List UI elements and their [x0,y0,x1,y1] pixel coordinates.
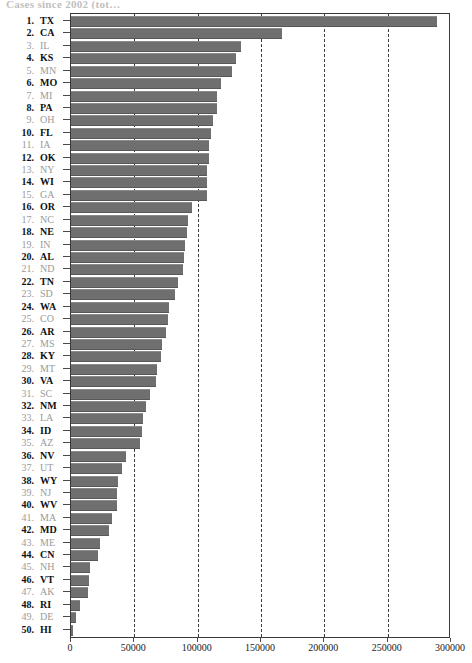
bar [71,401,146,412]
row-rank: 40. [8,499,34,511]
row-category-label: CA [40,27,64,39]
row-rank: 20. [8,251,34,263]
bar-row: 49.DE [0,611,472,623]
row-category-label: NE [40,226,64,238]
row-rank: 4. [8,52,34,64]
row-category-label: VT [40,574,64,586]
bar-row: 3.IL [0,40,472,52]
bar [71,327,166,338]
row-tick [63,542,70,543]
row-rank: 42. [8,524,34,536]
row-category-label: ND [40,263,64,275]
row-tick [63,591,70,592]
row-category-label: AR [40,326,64,338]
x-tick-label: 250000 [372,642,402,654]
x-tick-label: 200000 [308,642,338,654]
row-rank: 13. [8,164,34,176]
row-tick [63,529,70,530]
bar [71,587,88,598]
row-rank: 24. [8,301,34,313]
bar-rows: 1.TX2.CA3.IL4.KS5.MN6.MO7.MI8.PA9.OH10.F… [0,0,472,663]
bar [71,202,192,213]
row-tick [63,57,70,58]
row-tick [63,492,70,493]
row-tick [63,442,70,443]
row-tick [63,45,70,46]
row-category-label: ME [40,537,64,549]
x-tick-label: 0 [68,642,73,654]
row-rank: 7. [8,90,34,102]
bar-row: 38.WY [0,475,472,487]
row-tick [63,132,70,133]
row-tick [63,181,70,182]
row-tick [63,604,70,605]
row-category-label: NV [40,450,64,462]
row-tick [63,368,70,369]
row-category-label: NM [40,400,64,412]
bar-row: 37.UT [0,462,472,474]
row-tick [63,430,70,431]
row-category-label: TX [40,15,64,27]
bar-row: 28.KY [0,350,472,362]
bar-row: 27.MS [0,338,472,350]
row-tick [63,281,70,282]
row-tick [63,467,70,468]
bar-row: 40.WV [0,499,472,511]
row-tick [63,405,70,406]
row-rank: 28. [8,350,34,362]
bar [71,91,217,102]
bar [71,128,211,139]
row-tick [63,206,70,207]
row-rank: 34. [8,425,34,437]
row-rank: 16. [8,201,34,213]
bar-row: 44.CN [0,549,472,561]
bar [71,426,142,437]
bar [71,78,221,89]
bar-row: 43.ME [0,537,472,549]
row-rank: 43. [8,537,34,549]
row-category-label: AK [40,586,64,598]
bar [71,153,209,164]
row-tick [63,231,70,232]
row-category-label: KS [40,52,64,64]
row-rank: 44. [8,549,34,561]
bar-row: 12.OK [0,152,472,164]
row-rank: 17. [8,214,34,226]
row-rank: 37. [8,462,34,474]
bar [71,575,89,586]
bar-row: 13.NY [0,164,472,176]
bar-row: 21.ND [0,263,472,275]
bar [71,53,236,64]
row-category-label: LA [40,412,64,424]
bar [71,339,162,350]
row-category-label: IL [40,40,64,52]
bar [71,103,217,114]
row-tick [63,194,70,195]
bar [71,66,232,77]
row-tick [63,107,70,108]
bar-row: 41.MA [0,512,472,524]
row-category-label: MT [40,363,64,375]
bar-row: 26.AR [0,326,472,338]
row-category-label: NY [40,164,64,176]
row-rank: 15. [8,189,34,201]
bar-row: 16.OR [0,201,472,213]
row-rank: 41. [8,512,34,524]
bar-row: 4.KS [0,52,472,64]
bar [71,476,118,487]
row-rank: 2. [8,27,34,39]
row-tick [63,616,70,617]
row-rank: 29. [8,363,34,375]
row-rank: 27. [8,338,34,350]
row-category-label: KY [40,350,64,362]
row-rank: 26. [8,326,34,338]
row-tick [63,480,70,481]
row-category-label: OK [40,152,64,164]
row-category-label: WY [40,475,64,487]
row-category-label: AZ [40,437,64,449]
bar-row: 9.OH [0,114,472,126]
bar [71,264,183,275]
bar [71,538,100,549]
bar-row: 33.LA [0,412,472,424]
row-rank: 3. [8,40,34,52]
